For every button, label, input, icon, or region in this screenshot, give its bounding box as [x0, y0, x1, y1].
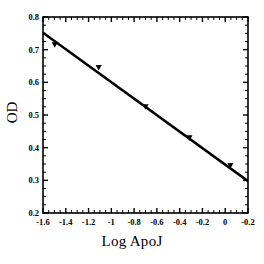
x-tick-label: -1	[108, 217, 115, 227]
fit-line	[43, 33, 264, 213]
x-tick-label: -1.4	[59, 217, 73, 227]
y-tick-label: 0.3	[28, 175, 39, 185]
x-tick-label: -0.4	[173, 217, 187, 227]
chart-container: -1.6-1.4-1.2-1-0.8-0.6-0.4-0.20-0.20.20.…	[0, 0, 264, 264]
y-tick-label: 0.7	[28, 45, 39, 55]
x-tick-label: -0.2	[196, 217, 209, 227]
y-tick-label: 0.2	[28, 208, 39, 218]
y-axis-title: OD	[4, 93, 21, 133]
y-tick-label: 0.6	[28, 77, 39, 87]
x-tick-label: -1.6	[36, 217, 49, 227]
x-tick-label: 0	[223, 217, 227, 227]
x-tick-label: -0.2	[241, 217, 254, 227]
data-point-marker	[52, 42, 58, 48]
scatter-plot: -1.6-1.4-1.2-1-0.8-0.6-0.4-0.20-0.20.20.…	[0, 0, 264, 264]
x-tick-label: -0.8	[127, 217, 140, 227]
y-tick-label: 0.8	[28, 12, 39, 22]
plot-area	[43, 33, 264, 213]
x-tick-label: -1.2	[82, 217, 95, 227]
x-tick-label: -0.6	[150, 217, 163, 227]
x-axis-title: Log ApoJ	[0, 233, 264, 250]
y-tick-label: 0.4	[28, 143, 39, 153]
y-tick-label: 0.5	[28, 110, 39, 120]
data-point-marker	[96, 65, 102, 71]
plot-frame	[43, 17, 248, 213]
